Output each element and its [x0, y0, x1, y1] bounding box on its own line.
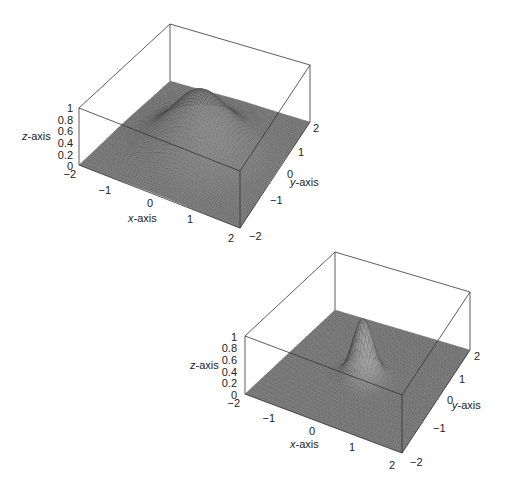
- x-axis-label: x-axis: [127, 212, 157, 224]
- z-tick-labels: 00.20.40.60.81: [58, 102, 73, 172]
- y-tick-label: 2: [474, 350, 480, 362]
- z-axis-label: z-axis: [21, 130, 51, 142]
- z-tick-label: 0.6: [222, 354, 237, 366]
- z-tick-label: 0.8: [222, 342, 237, 354]
- z-tick-label: 0.2: [222, 377, 237, 389]
- z-tick-label: 0.8: [58, 114, 73, 126]
- x-tick-label: −1: [262, 412, 275, 424]
- y-tick-label: 0: [447, 394, 453, 406]
- x-tick-label: 1: [187, 213, 193, 225]
- z-tick-label: 1: [231, 331, 237, 343]
- x-axis-label: x-axis: [289, 438, 319, 450]
- x-tick-label: 0: [147, 197, 153, 209]
- x-tick-label: −2: [227, 397, 240, 409]
- figure: z-axis x-axis y-axis 00.20.40.60.81 −2−1…: [0, 0, 507, 483]
- z-tick-label: 0.2: [58, 149, 73, 161]
- y-tick-label: 1: [459, 373, 465, 385]
- x-tick-label: −1: [98, 184, 111, 196]
- x-tick-label: 1: [349, 441, 355, 453]
- surface-plot-narrow: z-axis x-axis y-axis 00.20.40.60.81 −2−1…: [189, 252, 481, 471]
- y-tick-label: −1: [270, 194, 283, 206]
- x-tick-label: 2: [228, 232, 234, 244]
- z-tick-label: 0.6: [58, 125, 73, 137]
- x-tick-label: 2: [389, 459, 395, 471]
- y-tick-label: 1: [298, 146, 304, 158]
- surface-plot-broad: z-axis x-axis y-axis 00.20.40.60.81 −2−1…: [21, 24, 319, 244]
- z-tick-label: 0.4: [222, 366, 237, 378]
- y-axis-label: y-axis: [289, 176, 319, 188]
- y-tick-label: 0: [287, 168, 293, 180]
- x-tick-label: −2: [63, 168, 76, 180]
- z-tick-labels: 00.20.40.60.81: [222, 331, 237, 401]
- y-axis-label: y-axis: [451, 399, 481, 411]
- y-tick-label: −1: [433, 422, 446, 434]
- z-tick-label: 1: [67, 102, 73, 114]
- z-axis-label: z-axis: [189, 359, 219, 371]
- y-tick-label: −2: [410, 456, 423, 468]
- z-tick-label: 0.4: [58, 137, 73, 149]
- x-tick-label: 0: [309, 425, 315, 437]
- y-tick-label: −2: [249, 230, 262, 242]
- y-tick-label: 2: [313, 122, 319, 134]
